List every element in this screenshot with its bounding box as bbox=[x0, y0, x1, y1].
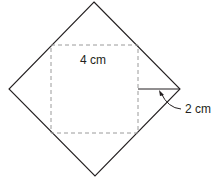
leader-arrow bbox=[161, 93, 181, 109]
corner-distance-label: 2 cm bbox=[185, 102, 211, 116]
diagram-canvas: 4 cm 2 cm bbox=[0, 0, 224, 179]
inner-square-label: 4 cm bbox=[80, 53, 106, 67]
arrowhead-icon bbox=[159, 90, 164, 96]
